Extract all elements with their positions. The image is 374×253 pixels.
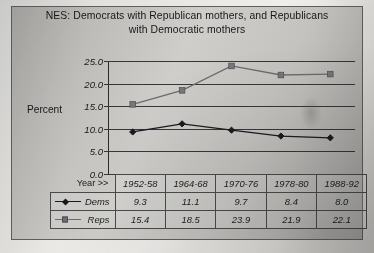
table-cell: 11.1 [165, 193, 215, 211]
table-row: Dems 9.3 11.1 9.7 8.4 8.0 [51, 193, 367, 211]
legend-cell-reps: Reps [51, 211, 116, 229]
table-cell: 9.3 [115, 193, 165, 211]
series-layer [108, 61, 355, 174]
year-header-label: Year >> [51, 175, 116, 193]
data-point [179, 121, 185, 127]
data-point [278, 72, 284, 78]
series-line [133, 66, 331, 104]
y-axis-label: Percent [27, 104, 62, 115]
table-header-row: Year >> 1952-58 1964-68 1970-76 1978-80 … [51, 175, 367, 193]
diamond-icon [55, 197, 81, 206]
chart-title: NES: Democrats with Republican mothers, … [18, 9, 356, 36]
table-cell: 23.9 [216, 211, 266, 229]
table-cell: 18.5 [165, 211, 215, 229]
series-reps [130, 63, 333, 107]
table-col-header: 1988-92 [317, 175, 367, 193]
chart-title-line-1: NES: Democrats with Republican mothers, … [18, 9, 356, 23]
table-cell: 9.7 [216, 193, 266, 211]
data-point [278, 133, 284, 139]
table-cell: 21.9 [266, 211, 316, 229]
square-icon [55, 215, 81, 224]
plot-area: 25.020.015.010.05.00.0 [108, 61, 355, 174]
table-col-header: 1970-76 [216, 175, 266, 193]
y-axis-tick-label: 15.0 [84, 101, 103, 112]
table-col-header: 1978-80 [266, 175, 316, 193]
data-point [228, 127, 234, 133]
y-axis-tick-label: 25.0 [84, 56, 103, 67]
y-axis-tick-label: 10.0 [84, 123, 103, 134]
series-label: Reps [88, 214, 110, 225]
data-point [130, 129, 136, 135]
data-point [328, 71, 334, 77]
table-col-header: 1964-68 [165, 175, 215, 193]
table-cell: 22.1 [317, 211, 367, 229]
table-col-header: 1952-58 [115, 175, 165, 193]
legend-cell-dems: Dems [51, 193, 116, 211]
y-axis-tick-label: 20.0 [84, 78, 103, 89]
table-cell: 15.4 [115, 211, 165, 229]
y-axis-tick-label: 5.0 [90, 146, 103, 157]
chart-page: NES: Democrats with Republican mothers, … [0, 0, 374, 253]
data-point [179, 88, 185, 94]
table-row: Reps 15.4 18.5 23.9 21.9 22.1 [51, 211, 367, 229]
data-table: Year >> 1952-58 1964-68 1970-76 1978-80 … [50, 174, 367, 229]
data-point [327, 135, 333, 141]
table-cell: 8.0 [317, 193, 367, 211]
data-point [229, 63, 235, 69]
data-point [130, 102, 136, 108]
table-cell: 8.4 [266, 193, 316, 211]
series-dems [130, 121, 334, 141]
chart-title-line-2: with Democratic mothers [18, 23, 356, 37]
series-label: Dems [85, 196, 109, 207]
